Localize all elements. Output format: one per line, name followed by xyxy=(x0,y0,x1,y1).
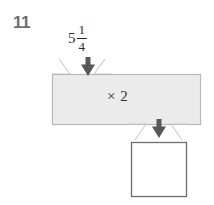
input-whole-number: 5 xyxy=(68,31,76,46)
input-fraction-denominator: 4 xyxy=(77,40,88,54)
answer-box[interactable] xyxy=(132,143,187,197)
input-arrow-icon xyxy=(81,57,95,76)
function-machine-diagram: 11 5 1 4 × 2 xyxy=(0,0,214,205)
input-funnel-right-wing xyxy=(94,59,112,74)
machine-operation-label: × 2 xyxy=(107,89,128,104)
problem-number: 11 xyxy=(13,14,30,31)
input-fraction: 1 4 xyxy=(77,23,88,53)
input-value: 5 1 4 xyxy=(68,23,87,53)
output-funnel-right-wing xyxy=(171,124,189,140)
output-funnel-left-wing xyxy=(128,124,146,140)
input-fraction-numerator: 1 xyxy=(77,23,88,37)
input-funnel-left-wing xyxy=(52,59,70,74)
